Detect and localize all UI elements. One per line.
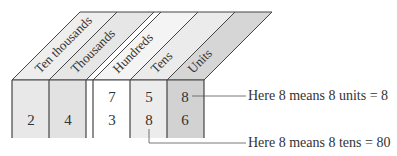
digit-thousands-bottom: 4 xyxy=(64,112,72,128)
place-value-diagram: Ten thousands Thousands Hundreds Tens Un… xyxy=(0,0,397,156)
digit-hundreds-bottom: 3 xyxy=(108,112,116,128)
digit-units-top: 8 xyxy=(181,89,189,105)
units-annotation: Here 8 means 8 units = 8 xyxy=(248,88,388,103)
digit-hundreds-top: 7 xyxy=(108,89,116,105)
digit-ten-thousands-bottom: 2 xyxy=(27,112,35,128)
tens-annotation: Here 8 means 8 tens = 80 xyxy=(248,135,390,150)
face-thousands xyxy=(49,80,86,138)
face-gap xyxy=(86,80,93,138)
digit-tens-top: 5 xyxy=(145,89,153,105)
face-ten-thousands xyxy=(12,80,49,138)
digit-units-bottom: 6 xyxy=(181,112,189,128)
digit-tens-bottom: 8 xyxy=(145,112,153,128)
